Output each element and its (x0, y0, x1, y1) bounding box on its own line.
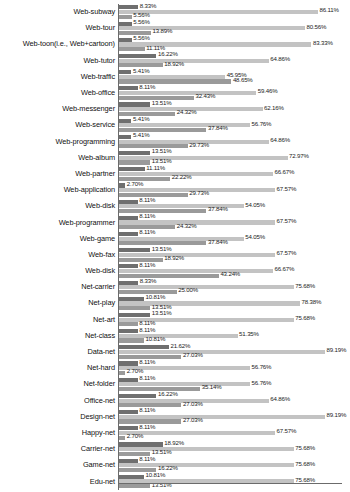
bar-series-3 (119, 306, 150, 310)
bar-series-3 (119, 274, 219, 278)
bar-row: 8.33% (119, 281, 350, 285)
bar-value-label: 89.19% (325, 347, 346, 353)
plot-area: 5.41%56.76%37.84% (118, 117, 350, 133)
bar-row: 13.51% (119, 248, 350, 252)
plot-area: 8.33%86.11%5.56% (118, 4, 350, 20)
bar-row: 13.51% (119, 151, 350, 155)
bar-value-label: 54.05% (244, 202, 265, 208)
bar-series-1 (119, 281, 138, 285)
plot-area: 8.11%56.76%35.14% (118, 376, 350, 392)
bar-group: Web-disk8.11%54.05%37.84% (0, 198, 350, 214)
bar-group: Net-art13.51%75.68%8.11% (0, 312, 350, 328)
bar-row: 56.76% (119, 366, 350, 370)
category-label: Data-net (0, 348, 118, 356)
bar-value-label: 10.81% (144, 472, 165, 478)
bar-row: 11.11% (119, 167, 350, 171)
bar-row: 64.86% (119, 140, 350, 144)
bar-value-label: 5.56% (132, 19, 150, 25)
bar-row: 18.92% (119, 63, 350, 67)
bar-value-label: 75.68% (294, 315, 315, 321)
category-label: Web-game (0, 235, 118, 243)
bar-value-label: 13.51% (150, 310, 171, 316)
bar-series-1 (119, 22, 132, 26)
bar-series-1 (119, 459, 138, 463)
bar-row: 13.51% (119, 313, 350, 317)
plot-area: 13.51%62.16%24.32% (118, 101, 350, 117)
bar-value-label: 37.84% (206, 239, 227, 245)
bar-row: 18.92% (119, 442, 350, 446)
plot-area: 5.56%83.33%11.11% (118, 36, 350, 52)
bar-series-2 (119, 91, 256, 95)
bar-value-label: 11.11% (145, 165, 165, 171)
bar-group: Web-programmer8.11%67.57%24.32% (0, 214, 350, 230)
bar-value-label: 8.11% (138, 424, 156, 430)
category-label: Web-programmer (0, 219, 118, 227)
bar-row: 86.11% (119, 10, 350, 14)
bar-row: 37.84% (119, 128, 350, 132)
bar-row: 89.19% (119, 350, 350, 354)
bar-row: 13.51% (119, 102, 350, 106)
bar-group: Web-service5.41%56.76%37.84% (0, 117, 350, 133)
bars-container: 5.41%56.76%37.84% (119, 117, 350, 133)
category-label: Web-tutor (0, 57, 118, 65)
bar-row: 8.11% (119, 361, 350, 365)
bar-row: 16.22% (119, 394, 350, 398)
bar-series-3 (119, 484, 150, 488)
bar-row: 66.67% (119, 172, 350, 176)
bar-group: Web-tour5.56%80.56%13.89% (0, 20, 350, 36)
bar-series-1 (119, 394, 156, 398)
category-label: Web-programming (0, 138, 118, 146)
bar-row: 59.46% (119, 91, 350, 95)
bar-value-label: 56.76% (250, 121, 271, 127)
bar-row: 8.11% (119, 216, 350, 220)
bars-container: 16.22%64.86%18.92% (119, 53, 350, 69)
bar-value-label: 24.32% (175, 109, 196, 115)
bar-row: 75.68% (119, 285, 350, 289)
bar-series-1 (119, 54, 156, 58)
bar-series-1 (119, 232, 138, 236)
bar-value-label: 64.86% (269, 396, 290, 402)
bar-value-label: 8.11% (138, 229, 156, 235)
bar-value-label: 29.73% (188, 142, 209, 148)
category-label: Office-net (0, 397, 118, 405)
category-label: Net-carrier (0, 283, 118, 291)
bar-row: 35.14% (119, 387, 350, 391)
bar-series-2 (119, 301, 300, 305)
bar-group: Edu-net10.81%75.68%13.51% (0, 473, 350, 489)
bar-value-label: 64.86% (269, 56, 290, 62)
bar-series-1 (119, 248, 150, 252)
bar-series-1 (119, 313, 150, 317)
bar-row: 62.16% (119, 107, 350, 111)
bar-series-1 (119, 329, 138, 333)
bar-series-1 (119, 297, 144, 301)
category-label: Web-tour (0, 24, 118, 32)
category-label: Web-toon(i.e., Web+cartoon) (0, 40, 118, 48)
bar-group: Carrier-net18.92%75.68%13.51% (0, 441, 350, 457)
bar-group: Web-messenger13.51%62.16%24.32% (0, 101, 350, 117)
bar-row: 56.76% (119, 123, 350, 127)
bars-container: 5.56%80.56%13.89% (119, 20, 350, 36)
bar-value-label: 64.86% (269, 137, 290, 143)
bar-value-label: 56.76% (250, 364, 271, 370)
bar-value-label: 2.70% (125, 181, 143, 187)
bar-value-label: 66.67% (273, 266, 294, 272)
bar-value-label: 10.81% (144, 294, 165, 300)
bar-value-label: 37.84% (206, 206, 227, 212)
bar-group: Web-album13.51%72.97%13.51% (0, 150, 350, 166)
bar-value-label: 8.11% (138, 327, 156, 333)
bar-row: 54.05% (119, 237, 350, 241)
bar-series-2 (119, 415, 325, 419)
plot-area: 5.56%80.56%13.89% (118, 20, 350, 36)
bar-group: Web-disk8.11%66.67%43.24% (0, 263, 350, 279)
category-label: Web-disk (0, 202, 118, 210)
bar-row: 64.86% (119, 399, 350, 403)
bar-value-label: 37.84% (206, 125, 227, 131)
bar-series-2 (119, 382, 250, 386)
bar-series-1 (119, 361, 138, 365)
bar-row: 54.05% (119, 204, 350, 208)
bar-value-label: 75.68% (294, 461, 315, 467)
bar-value-label: 25.00% (177, 287, 198, 293)
bar-series-2 (119, 26, 305, 30)
bar-row: 8.11% (119, 86, 350, 90)
category-label: Web-partner (0, 170, 118, 178)
